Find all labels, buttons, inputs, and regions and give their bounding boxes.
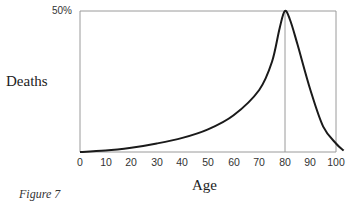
x-tick-label: 10	[94, 156, 118, 168]
x-tick-label: 80	[273, 156, 297, 168]
x-tick-label: 0	[68, 156, 92, 168]
x-tick-label: 90	[298, 156, 322, 168]
x-tick-label: 30	[145, 156, 169, 168]
y-tick-label-50: 50%	[52, 5, 72, 16]
deaths-curve	[80, 11, 344, 152]
x-tick-label: 70	[247, 156, 271, 168]
y-axis-label: Deaths	[6, 73, 48, 90]
x-tick-label: 60	[222, 156, 246, 168]
chart-plot-area	[0, 0, 350, 201]
x-tick-label: 40	[170, 156, 194, 168]
x-tick-label: 50	[196, 156, 220, 168]
figure-caption: Figure 7	[19, 187, 60, 201]
x-axis-label: Age	[192, 177, 217, 194]
x-tick-label: 20	[119, 156, 143, 168]
x-tick-label: 100	[324, 156, 348, 168]
